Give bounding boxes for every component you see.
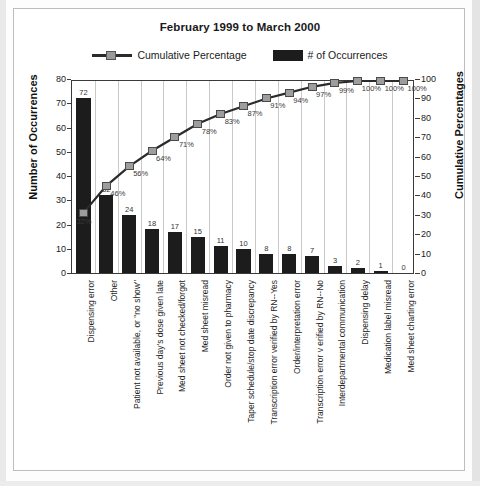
- legend-label-cumulative-percentage: Cumulative Percentage: [137, 49, 246, 61]
- x-axis-category-label: Med sheet charting error: [406, 280, 416, 373]
- cumulative-percentage-label: 56%: [133, 169, 148, 178]
- y-axis-right-tick: 0: [421, 268, 449, 278]
- y-axis-left-tick: 20: [14, 220, 66, 230]
- y-axis-right-title: Cumulative Percentages: [453, 45, 465, 225]
- page-edge-left: [0, 0, 6, 486]
- y-axis-left-tick: 70: [14, 98, 66, 108]
- legend-item-occurrences: # of Occurrences: [273, 49, 388, 61]
- cumulative-percentage-label: 91%: [270, 101, 285, 110]
- legend-line-icon: [92, 50, 132, 60]
- cumulative-percentage-label: 64%: [156, 154, 171, 163]
- x-axis-category-label: Other: [109, 280, 119, 301]
- page-edge-bottom: [0, 481, 480, 486]
- y-axis-left-tick: 60: [14, 123, 66, 133]
- y-axis-right-tick: 60: [421, 152, 449, 162]
- cumulative-percentage-label: 99%: [339, 86, 354, 95]
- x-axis-category-label: Medication label misread: [383, 280, 393, 374]
- x-axis-category-label: Previous day's dose given late: [155, 280, 165, 395]
- cumulative-marker: [79, 209, 88, 217]
- legend-label-occurrences: # of Occurrences: [308, 49, 388, 61]
- chart-panel: February 1999 to March 2000 Cumulative P…: [13, 8, 465, 471]
- y-axis-right-tick: 40: [421, 190, 449, 200]
- x-axis-category-label: Transcription error verified by RN--Yes: [269, 280, 279, 424]
- chart-canvas: Number of Occurrences Cumulative Percent…: [14, 71, 466, 471]
- y-axis-left-tick: 80: [14, 74, 66, 84]
- x-axis-category-label: Order/interpretation error: [292, 280, 302, 374]
- chart-legend: Cumulative Percentage # of Occurrences: [14, 49, 466, 61]
- cumulative-percentage-label: 100%: [362, 84, 381, 93]
- x-axis-category-label: Interdepartmental communication: [337, 280, 347, 406]
- y-axis-right-tick: 90: [421, 93, 449, 103]
- x-axis-category-label: Order not given to pharmacy: [223, 280, 233, 388]
- x-axis-category-label: Patient not available, or "no show": [132, 280, 142, 409]
- x-axis-category-label: Dispensing error: [86, 280, 96, 342]
- cumulative-percentage-label: 32%: [76, 217, 91, 226]
- cumulative-percentage-label: 46%: [110, 189, 125, 198]
- y-axis-left-tick: 10: [14, 244, 66, 254]
- y-axis-right-tick: 100: [421, 74, 449, 84]
- cumulative-percentage-label: 97%: [316, 90, 331, 99]
- y-axis-right-tick: 80: [421, 113, 449, 123]
- x-axis-category-label: Med sheet misread: [200, 280, 210, 352]
- y-axis-left-tick: 50: [14, 147, 66, 157]
- plot-area: 72322418171511108873210 32%46%56%64%71%7…: [71, 80, 414, 274]
- cumulative-percentage-label: 78%: [202, 127, 217, 136]
- x-axis-category-label: Taper schedule/stop date discrepancy: [246, 280, 256, 423]
- cumulative-percentage-label: 87%: [248, 109, 263, 118]
- cumulative-percentage-label: 100%: [385, 84, 404, 93]
- y-axis-right-tick: 20: [421, 229, 449, 239]
- cumulative-percentage-label: 83%: [225, 117, 240, 126]
- x-axis-category-labels: Dispensing errorOtherPatient not availab…: [71, 276, 414, 466]
- legend-square-marker-icon: [106, 51, 116, 60]
- y-axis-left-tick: 0: [14, 268, 66, 278]
- page-background: February 1999 to March 2000 Cumulative P…: [0, 0, 480, 486]
- x-axis-category-label: Med sheet not checked/forgot: [177, 280, 187, 392]
- legend-item-cumulative-percentage: Cumulative Percentage: [92, 49, 246, 61]
- legend-bar-swatch-icon: [273, 50, 303, 61]
- x-axis-category-label: Dispensing delay: [360, 280, 370, 345]
- y-axis-right-tick: 30: [421, 210, 449, 220]
- cumulative-line-path: [83, 81, 403, 213]
- y-axis-left-tick: 40: [14, 171, 66, 181]
- y-axis-left-tick: 30: [14, 195, 66, 205]
- page-edge-right: [472, 0, 480, 486]
- x-axis-category-label: Transcription error v erified by RN--No: [315, 280, 325, 424]
- chart-title: February 1999 to March 2000: [14, 21, 466, 33]
- y-axis-right-tick: 70: [421, 132, 449, 142]
- y-axis-right-tick: 10: [421, 249, 449, 259]
- cumulative-percentage-label: 100%: [408, 84, 427, 93]
- cumulative-percentage-label: 71%: [179, 140, 194, 149]
- cumulative-percentage-label: 94%: [293, 96, 308, 105]
- y-axis-right-tick: 50: [421, 171, 449, 181]
